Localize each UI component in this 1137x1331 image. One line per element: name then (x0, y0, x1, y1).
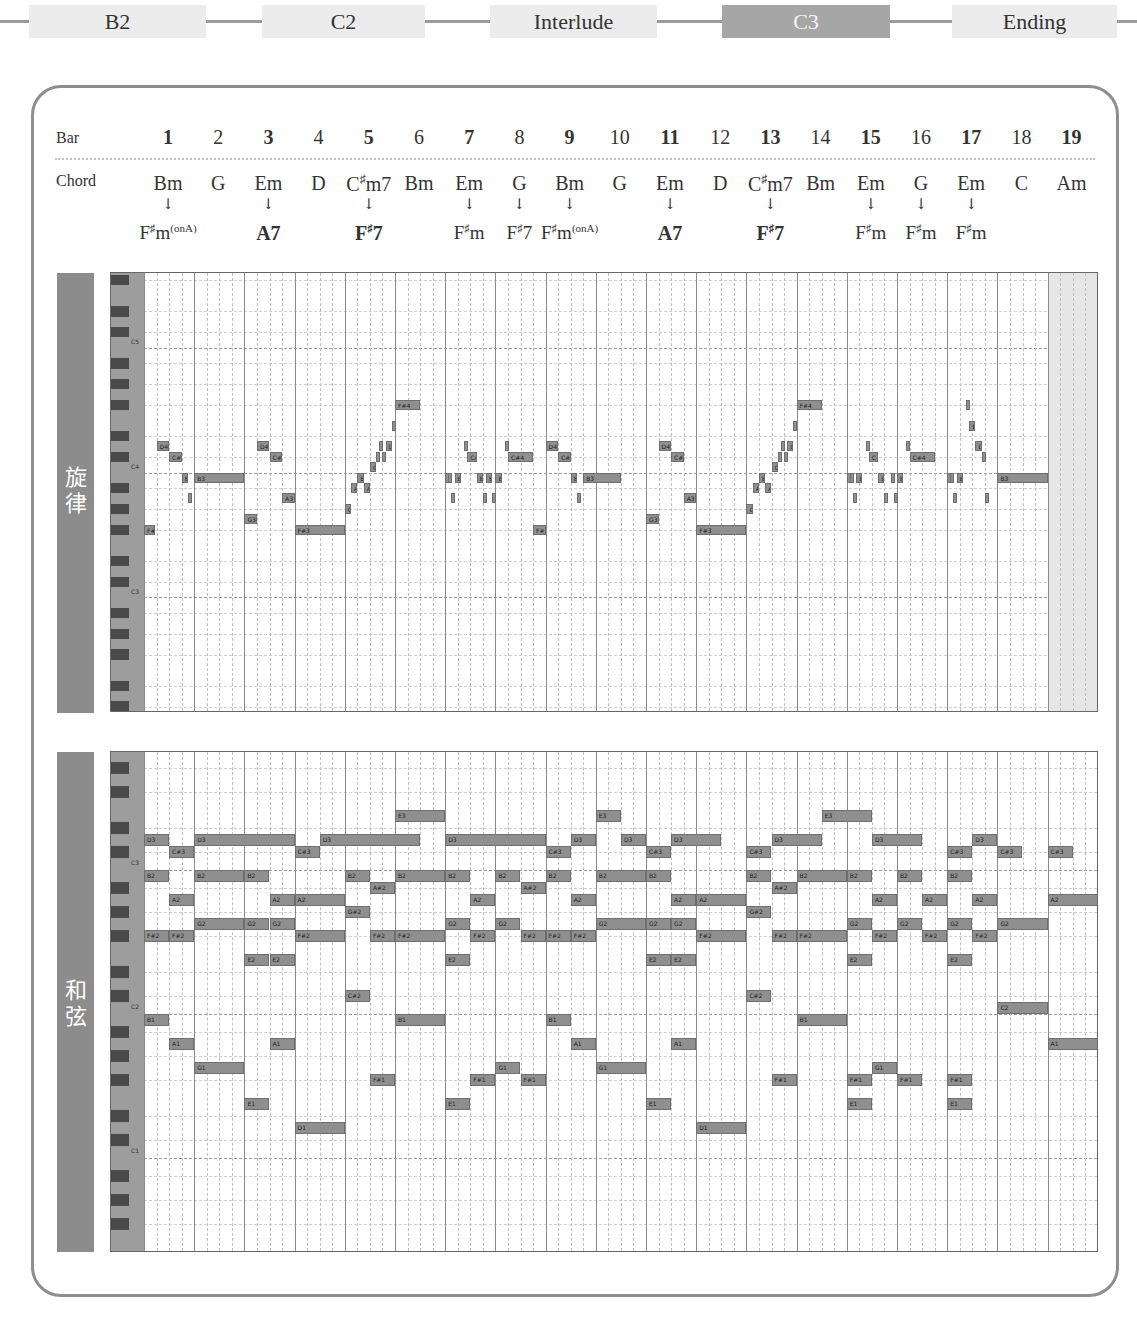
note-block[interactable]: G1 (194, 1062, 244, 1074)
note-block[interactable]: A2 (470, 894, 495, 906)
note-block[interactable]: E1 (445, 1098, 470, 1110)
note-block[interactable]: A2 (169, 894, 194, 906)
note-block[interactable]: D3 (872, 834, 922, 846)
note-block[interactable]: F#2 (872, 930, 897, 942)
note-block[interactable]: B (891, 473, 895, 483)
note-block[interactable]: F#3 (295, 525, 345, 535)
note-block[interactable]: F#2 (972, 930, 997, 942)
note-block[interactable]: A1 (571, 1038, 596, 1050)
note-block[interactable]: F#2 (295, 930, 345, 942)
note-block[interactable]: A (364, 483, 370, 493)
note-block[interactable]: B2 (495, 870, 520, 882)
note-block[interactable]: E (392, 421, 396, 431)
note-block[interactable]: D4 (257, 441, 270, 451)
note-block[interactable]: F#1 (897, 1074, 922, 1086)
note-block[interactable]: B (878, 473, 884, 483)
note-block[interactable]: D3 (194, 834, 294, 846)
note-block[interactable]: A (188, 493, 192, 503)
note-block[interactable]: G2 (997, 918, 1047, 930)
note-block[interactable]: A (765, 483, 771, 493)
note-block[interactable]: G1 (596, 1062, 646, 1074)
note-block[interactable]: B (897, 473, 903, 483)
note-block[interactable]: B2 (194, 870, 244, 882)
note-block[interactable]: A (884, 493, 888, 503)
note-block[interactable]: G# (746, 504, 752, 514)
note-block[interactable]: D (906, 441, 910, 451)
note-block[interactable]: G# (345, 504, 351, 514)
note-block[interactable]: D (975, 441, 981, 451)
note-block[interactable]: C2 (997, 1002, 1047, 1014)
note-block[interactable]: D4 (157, 441, 170, 451)
note-block[interactable]: F#2 (571, 930, 596, 942)
note-block[interactable]: B2 (546, 870, 571, 882)
note-block[interactable]: D1 (696, 1122, 746, 1134)
note-block[interactable]: D3 (972, 834, 997, 846)
note-block[interactable]: D4 (659, 441, 672, 451)
note-block[interactable]: F#3 (533, 525, 546, 535)
note-block[interactable]: A (492, 493, 496, 503)
note-block[interactable]: C#4 (910, 452, 935, 462)
note-block[interactable]: B3 (583, 473, 621, 483)
note-block[interactable]: C#3 (169, 846, 194, 858)
note-block[interactable]: A3 (282, 493, 295, 503)
note-block[interactable]: B2 (847, 870, 872, 882)
note-block[interactable]: F#2 (144, 930, 169, 942)
note-block[interactable]: B1 (144, 1014, 169, 1026)
nav-section-interlude[interactable]: Interlude (490, 5, 657, 38)
note-block[interactable]: B (759, 473, 765, 483)
note-block[interactable]: G#2 (746, 906, 771, 918)
note-block[interactable]: B2 (947, 870, 972, 882)
note-block[interactable]: G2 (847, 918, 872, 930)
note-block[interactable]: A (985, 493, 989, 503)
note-block[interactable]: A3 (684, 493, 697, 503)
note-block[interactable]: C#3 (546, 846, 571, 858)
note-block[interactable]: F#2 (395, 930, 445, 942)
note-block[interactable]: C#3 (947, 846, 972, 858)
note-block[interactable]: C#2 (345, 990, 370, 1002)
note-block[interactable]: E2 (847, 954, 872, 966)
note-block[interactable]: D (464, 441, 468, 451)
note-block[interactable]: C#4 (508, 452, 533, 462)
note-block[interactable]: A (894, 493, 898, 503)
note-block[interactable]: C#3 (997, 846, 1022, 858)
note-block[interactable]: E (793, 421, 797, 431)
note-block[interactable]: B2 (797, 870, 847, 882)
note-block[interactable]: E1 (244, 1098, 269, 1110)
note-block[interactable]: D4 (546, 441, 559, 451)
note-block[interactable]: B3 (997, 473, 1047, 483)
note-block[interactable]: C#3 (295, 846, 320, 858)
note-block[interactable]: C#2 (746, 990, 771, 1002)
note-block[interactable]: F#3 (144, 525, 155, 535)
note-block[interactable]: F#2 (772, 930, 797, 942)
note-block[interactable]: D3 (772, 834, 822, 846)
note-block[interactable]: F#2 (470, 930, 495, 942)
note-block[interactable]: G1 (872, 1062, 897, 1074)
note-block[interactable]: F#1 (947, 1074, 972, 1086)
note-block[interactable]: C#4 (558, 452, 571, 462)
note-block[interactable]: B (477, 473, 483, 483)
note-block[interactable]: G3 (244, 514, 257, 524)
note-block[interactable]: F#2 (169, 930, 194, 942)
note-block[interactable]: G#2 (345, 906, 370, 918)
note-block[interactable]: A1 (671, 1038, 696, 1050)
note-block[interactable]: A2 (1048, 894, 1098, 906)
note-block[interactable]: B2 (144, 870, 169, 882)
note-block[interactable]: B2 (244, 870, 269, 882)
note-block[interactable]: E3 (822, 810, 872, 822)
note-block[interactable]: G2 (671, 918, 696, 930)
note-block[interactable]: C (982, 452, 986, 462)
note-block[interactable]: G2 (897, 918, 922, 930)
note-block[interactable]: F#4 (797, 400, 822, 410)
note-block[interactable]: F#2 (546, 930, 571, 942)
nav-section-c3[interactable]: C3 (722, 5, 890, 38)
note-block[interactable]: E1 (646, 1098, 671, 1110)
note-block[interactable]: B2 (646, 870, 671, 882)
note-block[interactable]: F# (966, 400, 970, 410)
note-block[interactable]: B2 (445, 870, 470, 882)
note-block[interactable]: B1 (797, 1014, 847, 1026)
note-block[interactable]: F#4 (395, 400, 420, 410)
note-block[interactable]: G2 (947, 918, 972, 930)
note-block[interactable]: E2 (445, 954, 470, 966)
note-block[interactable]: D3 (571, 834, 596, 846)
note-block[interactable]: C#3 (746, 846, 771, 858)
